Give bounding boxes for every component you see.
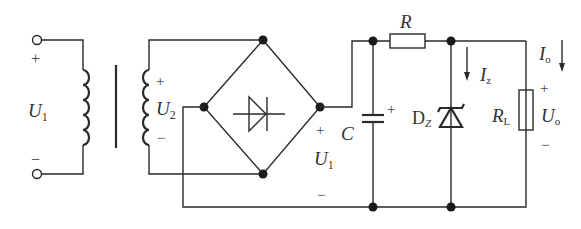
zener-current-label: Iz [479, 64, 491, 86]
secondary-coil-icon [143, 70, 149, 145]
primary-coil-icon [83, 70, 89, 145]
ground-rail [183, 41, 526, 207]
resistor-label: R [399, 11, 412, 32]
load-resistor-label: RL [491, 105, 511, 127]
positive-rail [320, 41, 390, 107]
secondary-plus-sign: + [156, 73, 164, 89]
bridge-node-top [259, 36, 268, 45]
capacitor-node-bottom [369, 203, 378, 212]
secondary-bottom-wire [149, 145, 263, 174]
output-minus-sign: − [541, 137, 549, 153]
rectified-voltage-label: U1 [314, 148, 334, 172]
input-terminal-bottom [33, 170, 42, 179]
rectified-minus-sign: − [317, 187, 325, 203]
secondary-minus-sign: − [157, 130, 165, 146]
zener-current-arrow-icon [464, 47, 470, 81]
zener-node-bottom [447, 203, 456, 212]
zener-node-top [447, 37, 456, 46]
secondary-top-wire [149, 40, 263, 70]
input-terminal-top [33, 36, 42, 45]
input-voltage-label: U1 [28, 100, 48, 124]
input-plus-sign: + [31, 50, 40, 67]
output-plus-sign: + [540, 80, 548, 96]
output-voltage-label: Uo [541, 105, 561, 127]
zener-label: DZ [412, 108, 432, 129]
capacitor-plus-sign: + [387, 101, 395, 117]
zener-diode [438, 37, 464, 212]
resistor-r [390, 34, 425, 48]
bridge-node-bottom [259, 170, 268, 179]
capacitor [362, 37, 384, 212]
bridge-rectifier [200, 36, 325, 179]
bridge-diamond [204, 40, 320, 174]
circuit-diagram: + − U1 + U2 − + U1 − C + R DZ Iz RL Io +… [0, 0, 581, 229]
rectified-plus-sign: + [316, 122, 324, 138]
primary-top-wire [42, 40, 84, 70]
output-current-arrow-icon [559, 40, 565, 72]
primary-bottom-wire [42, 145, 84, 174]
output-current-label: Io [538, 43, 551, 65]
secondary-voltage-label: U2 [156, 98, 176, 122]
capacitor-label: C [341, 123, 354, 144]
input-minus-sign: − [31, 151, 40, 168]
capacitor-node-top [369, 37, 378, 46]
